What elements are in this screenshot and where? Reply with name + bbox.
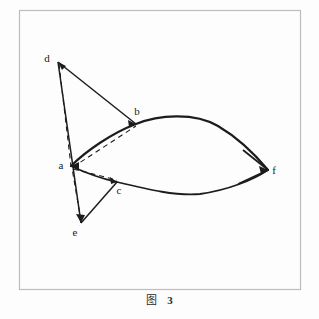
vertex-label-e: e bbox=[73, 226, 78, 238]
caption-number: 3 bbox=[167, 294, 173, 306]
vertex-label-f: f bbox=[272, 164, 276, 176]
figure-caption: 图3 bbox=[0, 291, 319, 307]
vertex-label-a: a bbox=[59, 159, 64, 171]
geometry-diagram: a b c d e f bbox=[0, 0, 319, 319]
vertex-label-c: c bbox=[117, 184, 122, 196]
caption-label: 图 bbox=[146, 294, 157, 307]
figure-container: a b c d e f 图3 bbox=[0, 0, 319, 319]
vertex-label-b: b bbox=[134, 105, 140, 117]
vertex-label-d: d bbox=[44, 52, 50, 64]
figure-frame bbox=[20, 11, 301, 290]
